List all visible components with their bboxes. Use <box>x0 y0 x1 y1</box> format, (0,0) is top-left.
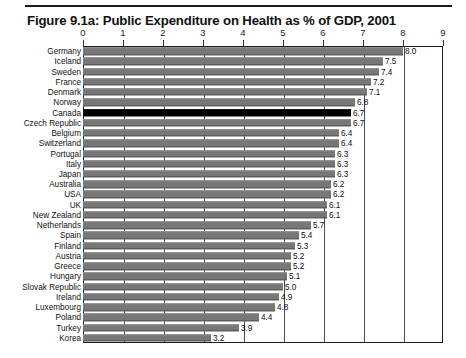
bar-slovak-republic[interactable] <box>83 283 283 290</box>
bar-italy[interactable] <box>83 160 335 167</box>
value-label-slovak-republic: 5.0 <box>283 282 296 291</box>
table-row[interactable]: Australia6.2 <box>0 179 466 189</box>
bar-luxembourg[interactable] <box>83 303 275 310</box>
category-label-uk: UK <box>70 200 81 209</box>
category-label-ireland: Ireland <box>56 292 81 301</box>
value-label-luxembourg: 4.8 <box>275 303 288 312</box>
table-row[interactable]: Poland4.4 <box>0 312 466 322</box>
table-row[interactable]: USA6.2 <box>0 189 466 199</box>
table-row[interactable]: Czech Republic6.7 <box>0 118 466 128</box>
table-row[interactable]: Spain5.4 <box>0 230 466 240</box>
bar-japan[interactable] <box>83 170 335 177</box>
bar-australia[interactable] <box>83 181 331 188</box>
table-row[interactable]: Turkey3.9 <box>0 323 466 333</box>
table-row[interactable]: France7.2 <box>0 77 466 87</box>
table-row[interactable]: Italy6.3 <box>0 159 466 169</box>
bar-finland[interactable] <box>83 242 295 249</box>
table-row[interactable]: Netherlands5.7 <box>0 220 466 230</box>
table-row[interactable]: Luxembourg4.8 <box>0 302 466 312</box>
table-row[interactable]: Belgium6.4 <box>0 128 466 138</box>
bar-canada[interactable] <box>83 109 351 116</box>
bar-germany[interactable] <box>83 47 403 54</box>
value-label-japan: 6.3 <box>335 170 348 179</box>
category-label-japan: Japan <box>59 170 81 179</box>
table-row[interactable]: Iceland7.5 <box>0 56 466 66</box>
bar-czech-republic[interactable] <box>83 119 351 126</box>
bar-portugal[interactable] <box>83 150 335 157</box>
x-tick-label-1: 1 <box>120 27 125 38</box>
category-label-belgium: Belgium <box>51 129 81 138</box>
category-label-luxembourg: Luxembourg <box>35 303 81 312</box>
table-row[interactable]: Portugal6.3 <box>0 148 466 158</box>
bar-belgium[interactable] <box>83 129 339 136</box>
bar-iceland[interactable] <box>83 58 383 65</box>
table-row[interactable]: Norway6.8 <box>0 97 466 107</box>
category-label-spain: Spain <box>60 231 81 240</box>
table-row[interactable]: Germany8.0 <box>0 46 466 56</box>
x-tick-label-3: 3 <box>200 27 205 38</box>
table-row[interactable]: Hungary5.1 <box>0 271 466 281</box>
table-row[interactable]: Canada6.7 <box>0 107 466 117</box>
bar-greece[interactable] <box>83 262 291 269</box>
category-label-sweden: Sweden <box>51 67 81 76</box>
bar-switzerland[interactable] <box>83 140 339 147</box>
bar-uk[interactable] <box>83 201 327 208</box>
bar-sweden[interactable] <box>83 68 379 75</box>
bar-hungary[interactable] <box>83 273 287 280</box>
bar-turkey[interactable] <box>83 324 239 331</box>
value-label-denmark: 7.1 <box>367 88 380 97</box>
value-label-poland: 4.4 <box>259 313 272 322</box>
category-label-czech-republic: Czech Republic <box>24 118 81 127</box>
bar-netherlands[interactable] <box>83 222 311 229</box>
table-row[interactable]: Sweden7.4 <box>0 66 466 76</box>
table-row[interactable]: UK6.1 <box>0 200 466 210</box>
value-label-sweden: 7.4 <box>379 67 392 76</box>
value-label-turkey: 3.9 <box>239 323 252 332</box>
value-label-belgium: 6.4 <box>339 129 352 138</box>
x-tick-label-4: 4 <box>240 27 245 38</box>
table-row[interactable]: Japan6.3 <box>0 169 466 179</box>
bar-spain[interactable] <box>83 232 299 239</box>
category-label-poland: Poland <box>56 313 82 322</box>
table-row[interactable]: Finland5.3 <box>0 241 466 251</box>
category-label-austria: Austria <box>56 251 81 260</box>
bar-poland[interactable] <box>83 314 259 321</box>
value-label-netherlands: 5.7 <box>311 221 324 230</box>
bar-ireland[interactable] <box>83 293 279 300</box>
value-label-iceland: 7.5 <box>383 57 396 66</box>
category-label-norway: Norway <box>53 98 81 107</box>
table-row[interactable]: Ireland4.9 <box>0 292 466 302</box>
x-tick-label-8: 8 <box>400 27 405 38</box>
bar-norway[interactable] <box>83 99 355 106</box>
table-row[interactable]: Greece5.2 <box>0 261 466 271</box>
table-row[interactable]: New Zealand6.1 <box>0 210 466 220</box>
category-label-italy: Italy <box>66 159 81 168</box>
value-label-norway: 6.8 <box>355 98 368 107</box>
x-tick-label-7: 7 <box>360 27 365 38</box>
header-divider <box>25 5 452 7</box>
bar-austria[interactable] <box>83 252 291 259</box>
category-label-hungary: Hungary <box>50 272 81 281</box>
category-label-korea: Korea <box>59 333 81 342</box>
bar-denmark[interactable] <box>83 88 367 95</box>
figure-container: Figure 9.1a: Public Expenditure on Healt… <box>0 0 466 358</box>
bar-new-zealand[interactable] <box>83 211 327 218</box>
value-label-spain: 5.4 <box>299 231 312 240</box>
bar-usa[interactable] <box>83 191 331 198</box>
table-row[interactable]: Korea3.2 <box>0 333 466 343</box>
x-tick-label-2: 2 <box>160 27 165 38</box>
value-label-usa: 6.2 <box>331 190 344 199</box>
table-row[interactable]: Switzerland6.4 <box>0 138 466 148</box>
category-label-germany: Germany <box>47 47 81 56</box>
bar-france[interactable] <box>83 78 371 85</box>
x-tick-label-9: 9 <box>440 27 445 38</box>
category-label-usa: USA <box>64 190 81 199</box>
value-label-finland: 5.3 <box>295 241 308 250</box>
category-label-iceland: Iceland <box>55 57 81 66</box>
bar-korea[interactable] <box>83 334 211 341</box>
table-row[interactable]: Austria5.2 <box>0 251 466 261</box>
category-label-finland: Finland <box>54 241 81 250</box>
value-label-ireland: 4.9 <box>279 292 292 301</box>
table-row[interactable]: Slovak Republic5.0 <box>0 282 466 292</box>
table-row[interactable]: Denmark7.1 <box>0 87 466 97</box>
